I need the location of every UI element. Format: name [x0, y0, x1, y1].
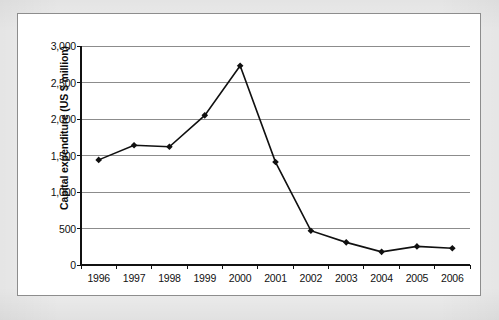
data-point-marker — [131, 142, 138, 149]
data-point-marker — [449, 245, 456, 252]
series-markers — [95, 62, 455, 255]
line-chart: Capital expenditure (US $ million) 05001… — [18, 14, 482, 297]
gridlines — [81, 46, 470, 229]
data-point-marker — [414, 243, 421, 250]
data-point-marker — [272, 159, 279, 166]
data-point-marker — [95, 157, 102, 164]
scanned-page: Capital expenditure (US $ million) 05001… — [0, 0, 499, 320]
figure-frame: Capital expenditure (US $ million) 05001… — [17, 13, 481, 296]
data-point-marker — [343, 239, 350, 246]
data-point-marker — [378, 249, 385, 256]
plot-canvas — [18, 14, 482, 297]
